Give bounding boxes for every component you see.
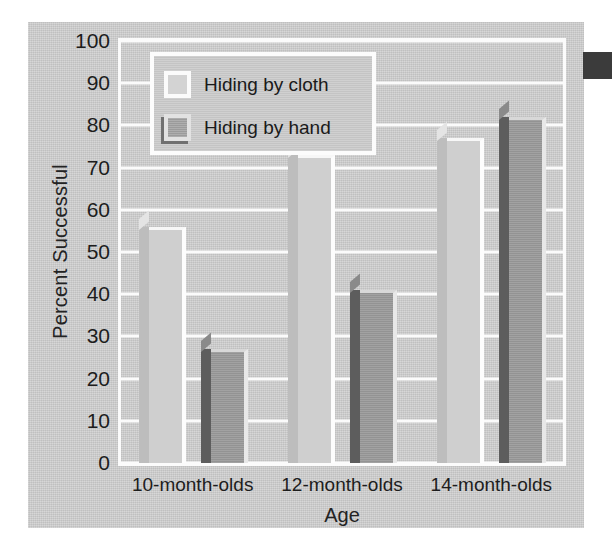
y-tick-label: 100 (64, 29, 110, 53)
x-axis-title: Age (118, 504, 566, 527)
y-tick-label: 20 (64, 367, 110, 391)
y-tick-label: 90 (64, 71, 110, 95)
cloth-swatch-icon (164, 71, 191, 98)
legend-label-cloth: Hiding by cloth (204, 74, 329, 96)
y-tick-label: 60 (64, 198, 110, 222)
y-tick-label: 30 (64, 324, 110, 348)
hand-swatch-icon (164, 114, 191, 141)
x-axis-tick-labels: 10-month-olds12-month-olds14-month-olds (118, 474, 566, 504)
chart-panel: Percent Successful 100908070605040302010… (28, 22, 584, 528)
legend-entry-cloth: Hiding by cloth (164, 63, 364, 106)
y-tick-label: 40 (64, 282, 110, 306)
x-tick-label: 12-month-olds (281, 474, 402, 496)
y-tick-label: 0 (64, 451, 110, 475)
y-tick-label: 50 (64, 240, 110, 264)
figure-root: Percent Successful 100908070605040302010… (0, 0, 612, 555)
y-tick-label: 80 (64, 113, 110, 137)
legend-entry-hand: Hiding by hand (164, 106, 364, 149)
y-tick-label: 10 (64, 409, 110, 433)
y-tick-label: 70 (64, 156, 110, 180)
legend-label-hand: Hiding by hand (204, 117, 331, 139)
legend: Hiding by cloth Hiding by hand (150, 52, 376, 155)
x-tick-label: 10-month-olds (132, 474, 253, 496)
scan-artifact (583, 52, 612, 79)
x-tick-label: 14-month-olds (431, 474, 552, 496)
y-axis-tick-labels: 1009080706050403020100 (64, 22, 110, 528)
